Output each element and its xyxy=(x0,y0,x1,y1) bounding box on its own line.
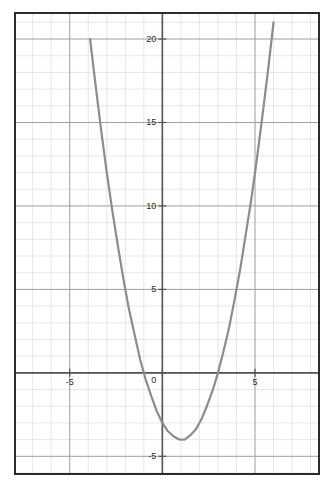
plot-area[interactable]: 20 15 10 5 0 -5 -5 5 xyxy=(14,12,320,475)
graph-screenshot: 20 15 10 5 0 -5 -5 5 xyxy=(0,0,333,487)
curve-layer xyxy=(16,14,318,473)
parabola-curve[interactable] xyxy=(90,22,273,439)
